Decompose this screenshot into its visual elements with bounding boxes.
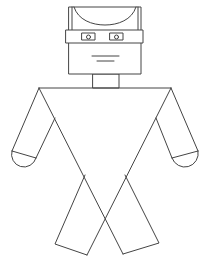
left-arm (12, 88, 55, 167)
torso-left-edge (39, 88, 123, 254)
left-hand (12, 151, 36, 167)
right-cuff (172, 151, 198, 158)
left-cuff (12, 151, 36, 158)
right-arm (156, 88, 198, 167)
neck (93, 74, 119, 88)
torso-right-edge (87, 88, 171, 255)
left-leg (55, 175, 87, 255)
head (66, 7, 143, 74)
visor-band (66, 30, 143, 43)
torso (39, 88, 171, 255)
robot-figure (0, 0, 208, 260)
right-hand (172, 151, 198, 167)
robot-drawing (0, 0, 208, 260)
right-leg (123, 175, 159, 254)
